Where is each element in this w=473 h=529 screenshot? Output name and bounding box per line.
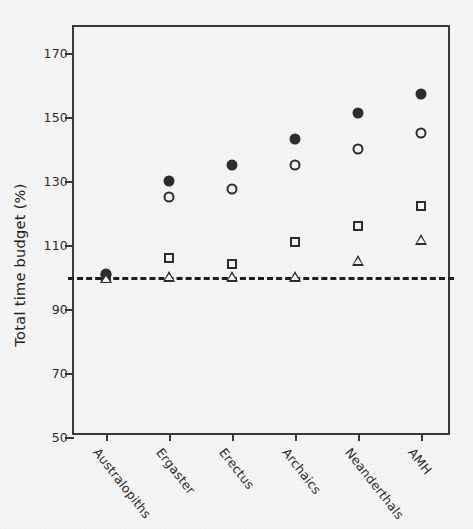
y-tick-label: 170 — [44, 45, 68, 60]
marker-open-square-archaics — [290, 237, 300, 247]
x-tick-mark-1 — [169, 433, 171, 441]
marker-open-circle-archaics — [289, 159, 300, 170]
marker-open-triangle-amh — [415, 234, 427, 245]
reference-line-100 — [68, 277, 454, 280]
marker-open-triangle-australopiths — [100, 272, 112, 283]
x-tick-label-archaics: Archaics — [279, 445, 324, 497]
scatter-plot-figure: Total time budget (%) 507090110130150170… — [0, 0, 473, 529]
x-tick-mark-5 — [421, 433, 423, 441]
marker-filled-circle-amh — [415, 89, 426, 100]
x-tick-label-australopiths: Australopiths — [90, 445, 154, 521]
marker-open-circle-ergaster — [163, 191, 174, 202]
marker-open-circle-amh — [415, 127, 426, 138]
marker-open-circle-neanderthals — [352, 143, 363, 154]
x-tick-mark-3 — [295, 433, 297, 441]
marker-open-circle-erectus — [226, 183, 237, 194]
marker-open-triangle-archaics — [289, 271, 301, 282]
y-tick-label: 50 — [52, 430, 68, 445]
marker-open-triangle-erectus — [226, 271, 238, 282]
marker-open-square-amh — [416, 201, 426, 211]
y-tick-label: 130 — [44, 173, 68, 188]
y-tick-label: 70 — [52, 365, 68, 380]
y-axis-title: Total time budget (%) — [12, 183, 28, 346]
x-tick-mark-4 — [358, 433, 360, 441]
marker-open-square-erectus — [227, 259, 237, 269]
marker-open-square-neanderthals — [353, 221, 363, 231]
marker-open-square-ergaster — [164, 253, 174, 263]
marker-open-triangle-neanderthals — [352, 255, 364, 266]
plot-area: 507090110130150170 AustralopithsErgaster… — [74, 27, 448, 433]
marker-filled-circle-ergaster — [163, 175, 174, 186]
y-tick-label: 110 — [44, 237, 68, 252]
marker-filled-circle-erectus — [226, 159, 237, 170]
x-tick-mark-0 — [106, 433, 108, 441]
marker-filled-circle-neanderthals — [352, 108, 363, 119]
x-tick-mark-2 — [232, 433, 234, 441]
x-tick-label-neanderthals: Neanderthals — [342, 445, 407, 522]
marker-filled-circle-archaics — [289, 134, 300, 145]
x-tick-label-amh: AMH — [405, 445, 435, 477]
x-tick-label-erectus: Erectus — [216, 445, 257, 492]
x-tick-label-ergaster: Ergaster — [153, 445, 198, 497]
plot-frame: 507090110130150170 AustralopithsErgaster… — [72, 25, 450, 435]
marker-open-triangle-ergaster — [163, 271, 175, 282]
y-tick-label: 90 — [52, 301, 68, 316]
y-tick-label: 150 — [44, 109, 68, 124]
